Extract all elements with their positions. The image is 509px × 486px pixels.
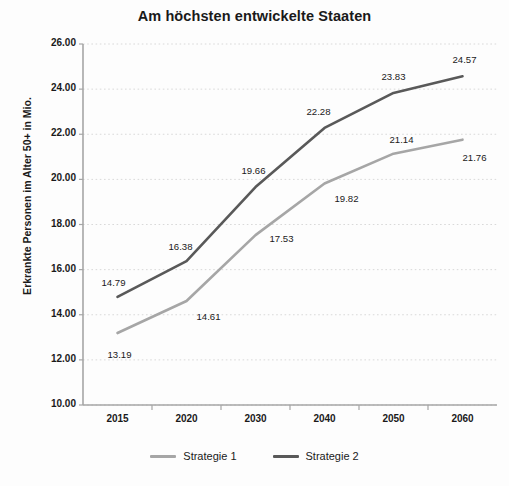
chart-legend: Strategie 1 Strategie 2: [0, 450, 509, 462]
data-point-label: 17.53: [259, 233, 305, 244]
data-point-label: 14.79: [91, 277, 137, 288]
data-point-label: 19.66: [231, 165, 277, 176]
x-axis-tick-label: 2050: [364, 413, 424, 424]
data-point-label: 24.57: [442, 54, 488, 65]
legend-label: Strategie 2: [306, 450, 359, 462]
legend-item-strategie-2[interactable]: Strategie 2: [273, 450, 359, 462]
data-point-label: 19.82: [324, 193, 370, 204]
data-point-label: 13.19: [97, 349, 143, 360]
legend-swatch-icon: [150, 455, 176, 458]
data-point-label: 16.38: [158, 241, 204, 252]
data-point-label: 23.83: [371, 71, 417, 82]
series-line-2: [118, 76, 463, 297]
data-point-label: 21.14: [379, 134, 425, 145]
x-axis-tick-label: 2020: [157, 413, 217, 424]
data-point-label: 22.28: [296, 106, 342, 117]
legend-swatch-icon: [273, 455, 299, 458]
x-axis-tick-label: 2060: [433, 413, 493, 424]
legend-item-strategie-1[interactable]: Strategie 1: [150, 450, 236, 462]
data-point-label: 21.76: [452, 152, 498, 163]
chart-container: Am höchsten entwickelte Staaten Erkrankt…: [0, 0, 509, 486]
x-axis-tick-label: 2030: [226, 413, 286, 424]
data-point-label: 14.61: [186, 311, 232, 322]
legend-label: Strategie 1: [183, 450, 236, 462]
x-axis-tick-label: 2040: [295, 413, 355, 424]
x-axis-tick-label: 2015: [88, 413, 148, 424]
series-lines: [118, 76, 463, 333]
